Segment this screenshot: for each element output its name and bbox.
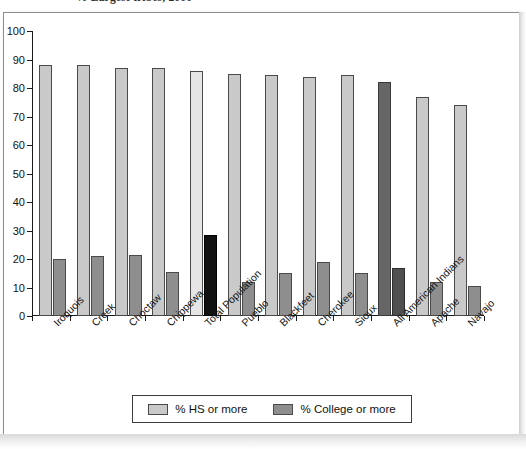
bar-group [378,31,405,316]
y-tick-mark [27,31,32,32]
chart-legend: % HS or more% College or more [132,395,412,423]
legend-item-1[interactable]: % HS or more [148,403,247,415]
y-tick-mark [27,88,32,89]
bar-group [77,31,104,316]
bar-hs-or-more [378,82,391,316]
bar-hs-or-more [115,68,128,316]
bar-hs-or-more [265,75,278,316]
bar-hs-or-more [190,71,203,316]
page-title: % Largest tribes, 2000 [76,0,192,3]
y-tick-label: 10 [13,282,25,294]
x-axis-category-labels: IroquoisCreekChoctawChippewaTotal Popula… [32,318,502,398]
bar-college-or-more [204,235,217,316]
y-tick-mark [27,288,32,289]
page-title-strip: % Largest tribes, 2000 [0,0,526,12]
bar-group [265,31,292,316]
bar-group [115,31,142,316]
bar-hs-or-more [454,105,467,316]
bar-group [341,31,368,316]
y-tick-label: 0 [19,310,25,322]
page-shadow-right [519,12,526,437]
y-tick-label: 70 [13,111,25,123]
y-tick-mark [27,60,32,61]
legend-label: % HS or more [175,403,247,415]
y-tick-mark [27,231,32,232]
y-axis-line [32,31,33,316]
y-tick-label: 80 [13,82,25,94]
bar-hs-or-more [152,68,165,316]
bar-group [39,31,66,316]
bar-hs-or-more [341,75,354,316]
y-tick-mark [27,145,32,146]
legend-label: % College or more [300,403,395,415]
y-tick-label: 60 [13,139,25,151]
y-tick-mark [27,259,32,260]
bar-group [454,31,481,316]
bar-group [190,31,217,316]
y-tick-mark [27,117,32,118]
chart-figure-frame: 0102030405060708090100 IroquoisCreekChoc… [3,12,521,435]
y-tick-mark [27,174,32,175]
bar-group [152,31,179,316]
bar-hs-or-more [77,65,90,316]
bar-hs-or-more [39,65,52,316]
y-tick-label: 20 [13,253,25,265]
legend-swatch-icon [148,404,168,415]
legend-item-2[interactable]: % College or more [273,403,395,415]
scanned-page: % Largest tribes, 2000 01020304050607080… [0,0,526,449]
y-tick-label: 40 [13,196,25,208]
legend-swatch-icon [273,404,293,415]
y-tick-label: 50 [13,168,25,180]
y-tick-label: 100 [7,25,25,37]
bar-hs-or-more [303,77,316,316]
bar-hs-or-more [228,74,241,316]
y-tick-mark [27,202,32,203]
y-tick-label: 90 [13,54,25,66]
page-shadow-bottom [0,434,526,449]
y-tick-label: 30 [13,225,25,237]
bar-group [303,31,330,316]
